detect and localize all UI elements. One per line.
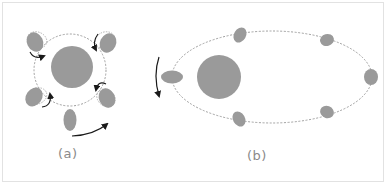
- panel-a-label: (a): [58, 146, 78, 161]
- panel-a: [22, 29, 120, 136]
- satellite-bottom-right: [93, 83, 119, 111]
- central-body: [197, 55, 241, 99]
- satellite-bottom: [64, 109, 77, 131]
- central-body: [51, 46, 93, 88]
- orbit-direction-arrow-icon: [72, 124, 107, 136]
- orbit-direction-arrow-icon: [156, 57, 159, 96]
- satellite-left: [161, 71, 183, 84]
- satellite-top-right: [93, 29, 120, 55]
- satellite-top-2: [319, 32, 336, 47]
- satellite-top-1: [231, 25, 249, 45]
- rotation-arrow-icon: [42, 94, 50, 107]
- satellite-bottom-left: [22, 84, 51, 110]
- satellite-top-left: [24, 29, 50, 57]
- satellite-right: [364, 69, 378, 85]
- panel-b-label: (b): [247, 148, 267, 163]
- satellite-bottom-1: [230, 109, 248, 129]
- panel-b: [156, 25, 378, 129]
- rotation-arrow-icon: [94, 34, 98, 50]
